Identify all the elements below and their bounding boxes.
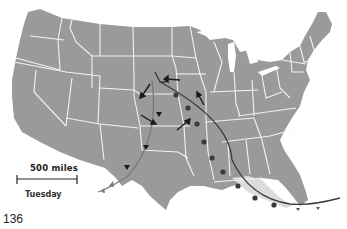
day-label: Tuesday (25, 190, 62, 199)
page-number: 136 (3, 212, 23, 226)
scale-bar (17, 175, 77, 184)
scale-label: 500 miles (30, 163, 78, 173)
